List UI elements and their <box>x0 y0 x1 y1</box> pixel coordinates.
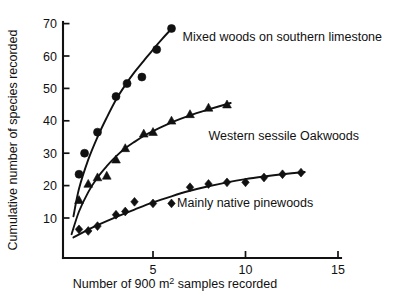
y-tick-label: 10 <box>43 212 57 226</box>
y-axis-title: Cumulative number of species recorded <box>6 29 20 250</box>
marker-circle <box>138 73 146 81</box>
chart-figure: 1020304050607051015 Mixed woods on south… <box>0 0 407 304</box>
marker-circle <box>94 128 102 136</box>
marker-diamond <box>149 199 156 208</box>
series-label-1: Mixed woods on southern limestone <box>183 30 382 44</box>
x-tick-label: 15 <box>331 263 345 277</box>
y-tick-label: 20 <box>43 179 57 193</box>
x-axis-title: Number of 900 m2 samples recorded <box>73 276 277 291</box>
y-tick-label: 50 <box>43 82 57 96</box>
marker-circle <box>153 46 161 54</box>
marker-diamond <box>297 168 304 177</box>
marker-triangle <box>84 179 93 187</box>
x-tick-label: 10 <box>239 263 253 277</box>
series-label-3: Mainly native pinewoods <box>177 196 313 210</box>
fit-curve-2 <box>72 103 231 234</box>
fit-curve-1 <box>73 27 173 217</box>
y-tick-label: 70 <box>43 17 57 31</box>
chart-plot-area: 1020304050607051015 Mixed woods on south… <box>0 0 407 304</box>
tick-labels: 1020304050607051015 <box>43 17 345 277</box>
marker-diamond <box>131 197 138 206</box>
marker-diamond <box>279 170 286 179</box>
marker-circle <box>75 170 83 178</box>
marker-triangle <box>102 171 111 179</box>
marker-diamond <box>168 199 175 208</box>
marker-circle <box>168 24 176 32</box>
marker-triangle <box>139 129 148 137</box>
x-tick-label: 5 <box>150 263 157 277</box>
marker-triangle <box>204 103 213 111</box>
series-label-2: Western sessile Oakwoods <box>209 129 360 143</box>
marker-circle <box>81 149 89 157</box>
y-tick-label: 40 <box>43 114 57 128</box>
y-tick-label: 60 <box>43 50 57 64</box>
marker-diamond <box>260 173 267 182</box>
marker-circle <box>112 93 120 101</box>
marker-diamond <box>223 178 230 187</box>
y-tick-label: 30 <box>43 147 57 161</box>
marker-circle <box>123 80 131 88</box>
